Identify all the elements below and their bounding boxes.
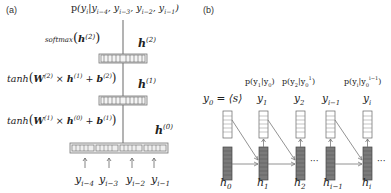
prob-y1: p(y1|y0): [245, 77, 275, 86]
input-y-i-1: yi−1: [151, 173, 170, 186]
layer-h2-label: h(2): [138, 37, 156, 50]
ellipsis-end: ···: [377, 156, 386, 166]
output-y-i-1: yi−1: [322, 92, 340, 104]
output-yi: yi: [363, 92, 371, 104]
hidden-h2: h2: [294, 176, 306, 189]
input-y-i-4: yi−4: [75, 173, 94, 186]
output-probability: p(yi|yi−4, yi−3, yi−2, yi−1): [71, 2, 179, 13]
output-y2: y2: [294, 92, 304, 104]
layer-h1-box: [99, 96, 147, 105]
prob-y2: p(y2|y01): [282, 77, 315, 86]
hidden-h-i-1: hi−1: [323, 176, 343, 189]
output-y1: y1: [257, 92, 267, 104]
tanh-layer2-label: tanh(W(2) × h(1) + b(2)): [7, 71, 117, 85]
layer-h0-box: [70, 143, 168, 153]
softmax-label: softmax(h(2)): [45, 30, 100, 45]
tanh-layer1-label: tanh(W(1) × h(0) + b(1)): [7, 113, 117, 127]
input-y-i-2: yi−2: [126, 173, 145, 186]
layer-h0-label: h(0): [155, 124, 173, 137]
input-arrows: [83, 158, 156, 168]
hidden-h0: h0: [220, 176, 232, 189]
ellipsis-middle: ···: [310, 156, 319, 166]
layer-h2-box: [99, 54, 147, 63]
layer-h1-label: h(1): [138, 78, 156, 91]
hidden-hi: hi: [362, 176, 371, 189]
panel-b-graphics: [223, 111, 372, 180]
hidden-h1: h1: [257, 176, 269, 189]
input-y-i-3: yi−3: [99, 173, 118, 186]
start-token-label: y0 = ⟨s⟩: [203, 92, 242, 104]
prob-yi: p(yi|y0i−1): [344, 77, 381, 86]
